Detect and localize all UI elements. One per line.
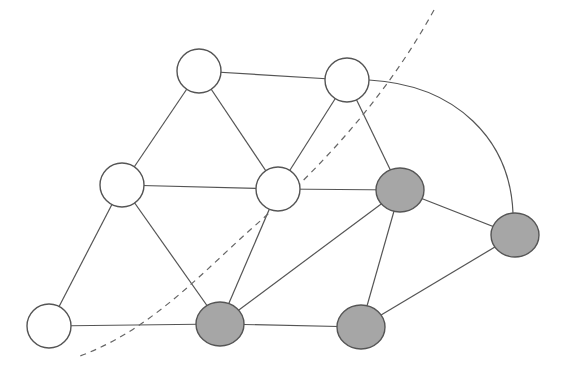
node-F-gray	[491, 213, 539, 257]
node-A-white	[177, 49, 221, 93]
edge-C-H	[122, 185, 220, 324]
nodes-layer	[27, 49, 539, 349]
node-E-gray	[376, 168, 424, 212]
node-B-white	[325, 58, 369, 102]
edge-G-H	[49, 324, 220, 326]
node-C-white	[100, 163, 144, 207]
node-D-white	[256, 167, 300, 211]
node-G-white	[27, 304, 71, 348]
graph-diagram	[0, 0, 568, 379]
edge-E-H	[220, 190, 400, 324]
edge-C-G	[49, 185, 122, 326]
edge-C-D	[122, 185, 278, 189]
node-H-gray	[196, 302, 244, 346]
edge-F-I	[361, 235, 515, 327]
node-I-gray	[337, 305, 385, 349]
